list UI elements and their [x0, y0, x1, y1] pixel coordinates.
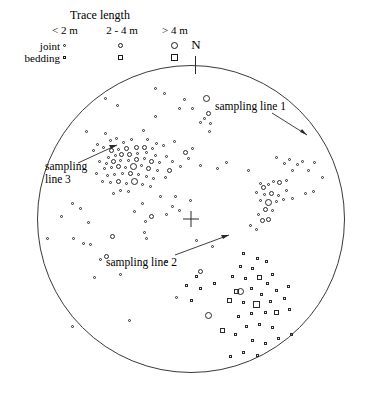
annotation-sampling-line-3-row2: line 3: [45, 173, 71, 186]
data-point-bedding: [237, 315, 240, 318]
data-point-joint: [127, 152, 132, 157]
data-point-joint: [99, 258, 102, 261]
data-point-joint: [275, 200, 278, 203]
stereonet-plot-area: [37, 65, 345, 373]
data-point-joint: [152, 177, 155, 180]
legend-marker-joint-medium: [118, 43, 123, 48]
data-point-joint: [164, 176, 167, 179]
data-point-joint: [216, 167, 219, 170]
data-point-bedding: [253, 301, 260, 308]
data-point-joint: [189, 199, 192, 202]
legend-row-label-joint: joint: [0, 40, 60, 52]
data-point-joint: [95, 172, 98, 175]
data-point-joint: [271, 209, 274, 212]
data-point-joint: [208, 130, 211, 133]
data-point-joint: [140, 164, 143, 167]
data-point-joint: [104, 97, 107, 100]
data-point-joint: [109, 139, 112, 142]
data-point-joint: [144, 220, 147, 223]
data-point-joint: [165, 213, 168, 216]
data-point-joint: [98, 160, 101, 163]
data-point-joint: [87, 221, 90, 224]
legend-column-header-3: > 4 m: [152, 24, 198, 36]
data-point-joint: [130, 163, 137, 170]
data-point-bedding: [257, 275, 262, 280]
data-point-joint: [72, 237, 75, 240]
data-point-bedding: [269, 300, 272, 303]
data-point-joint: [183, 98, 186, 101]
data-point-joint: [171, 160, 174, 163]
data-point-joint: [249, 224, 252, 227]
data-point-joint: [277, 194, 280, 197]
data-point-joint: [266, 217, 271, 222]
data-point-joint: [111, 159, 116, 164]
data-point-bedding: [271, 273, 274, 276]
data-point-joint: [149, 214, 154, 219]
data-point-joint: [265, 199, 272, 206]
data-point-joint: [159, 195, 162, 198]
data-point-joint: [106, 174, 109, 177]
data-point-joint: [60, 215, 63, 218]
data-point-joint: [122, 141, 125, 144]
data-point-joint: [282, 198, 285, 201]
data-point-bedding: [190, 299, 193, 302]
data-point-bedding: [231, 275, 234, 278]
data-point-joint: [158, 161, 161, 164]
data-point-joint: [142, 129, 145, 132]
data-point-bedding: [185, 284, 188, 287]
data-point-joint: [119, 273, 122, 276]
annotation-sampling-line-2: sampling line 2: [106, 256, 177, 269]
data-point-joint: [136, 152, 139, 155]
data-point-joint: [183, 150, 188, 155]
data-point-joint: [89, 243, 92, 246]
data-point-bedding: [220, 328, 225, 333]
data-point-joint: [142, 145, 147, 150]
data-point-joint: [134, 157, 139, 162]
data-point-joint: [260, 218, 265, 223]
data-point-joint: [124, 166, 127, 169]
data-point-bedding: [290, 333, 293, 336]
data-point-joint: [149, 185, 152, 188]
data-point-joint: [101, 180, 104, 183]
data-point-joint: [116, 164, 121, 169]
data-point-joint: [209, 122, 212, 125]
data-point-joint: [313, 161, 316, 164]
data-point-joint: [263, 193, 266, 196]
data-point-bedding: [199, 287, 202, 290]
legend-marker-joint-large: [171, 42, 178, 49]
data-point-joint: [178, 209, 181, 212]
data-point-joint: [198, 269, 203, 274]
data-point-bedding: [242, 351, 245, 354]
data-point-joint: [110, 166, 113, 169]
north-label: N: [182, 38, 210, 52]
data-point-joint: [114, 154, 117, 157]
data-point-joint: [113, 173, 116, 176]
data-point-bedding: [239, 265, 242, 268]
data-point-joint: [206, 111, 211, 116]
data-point-joint: [301, 160, 304, 163]
data-point-joint: [109, 181, 112, 184]
primitive-circle: [37, 65, 345, 373]
data-point-joint: [125, 182, 128, 185]
data-point-joint: [211, 245, 214, 248]
data-point-bedding: [242, 301, 245, 304]
data-point-joint: [269, 191, 274, 196]
data-point-bedding: [242, 252, 245, 255]
data-point-joint: [110, 234, 115, 239]
data-point-bedding: [251, 267, 254, 270]
data-point-joint: [116, 179, 121, 184]
data-point-joint: [171, 205, 174, 208]
data-point-joint: [82, 242, 85, 245]
data-point-joint: [145, 151, 148, 154]
data-point-joint: [283, 162, 286, 165]
data-point-joint: [304, 192, 307, 195]
data-point-joint: [115, 137, 118, 140]
data-point-joint: [154, 87, 157, 90]
data-point-joint: [162, 144, 165, 147]
data-point-bedding: [274, 310, 279, 315]
data-point-joint: [143, 231, 146, 234]
data-point-joint: [141, 183, 144, 186]
data-point-bedding: [229, 355, 232, 358]
data-point-joint: [199, 121, 202, 124]
data-point-joint: [167, 168, 172, 173]
